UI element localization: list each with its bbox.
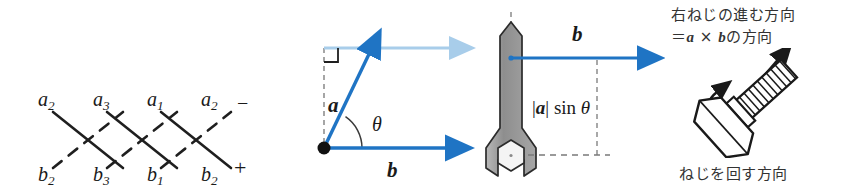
mnemonic-bottom-label-2: b1 [147,163,164,189]
mnemonic-top-label-0: a2 [38,88,55,114]
screw-caption-line2: ＝a × bの方向 [671,25,773,46]
vector-a-label: a [328,93,339,118]
vector-b-origin-dot [508,55,513,60]
hex-nut-center-dot [509,154,512,157]
hex-bolt [686,48,813,158]
mnemonic-bottom-label-1: b3 [93,163,110,189]
mnemonic-bottom-label-0: b2 [38,163,55,189]
mnemonic-top-label-1: a3 [93,88,110,114]
figure-root: a2 a3 a1 a2 b2 b3 b1 b2 − + [0,0,850,194]
vector-b-label: b [387,158,398,183]
screw-caption-bottom: ねじを回す方向 [679,162,788,183]
panel-wrench-torque: b |a| sin θ [480,0,665,194]
screw-caption-line1: 右ねじの進む方向 [671,3,795,24]
panel-cross-product-mnemonic: a2 a3 a1 a2 b2 b3 b1 b2 − + [0,0,290,194]
right-angle-marker [324,48,338,62]
panel-vector-angle: a b θ [300,0,480,194]
wrench-vector-b-label: b [572,22,583,47]
dashed-diagonal-group [53,112,231,168]
mnemonic-plus-sign: + [234,155,246,181]
origin-dot [318,142,331,155]
mnemonic-top-label-3: a2 [201,88,218,114]
angle-theta-label: θ [372,113,382,136]
mnemonic-top-label-2: a1 [147,88,164,114]
angle-arc [346,117,363,148]
height-label-a-sin-theta: |a| sin θ [532,97,590,119]
mnemonic-minus-sign: − [237,92,248,115]
panel-right-hand-screw: 右ねじの進む方向 ＝a × bの方向 [665,0,850,194]
mnemonic-bottom-label-3: b2 [201,163,218,189]
screw-illustration-svg [665,48,850,158]
